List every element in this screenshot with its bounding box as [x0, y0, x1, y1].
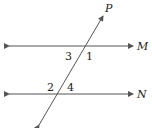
transversal-p	[39, 16, 103, 125]
label-n: N	[136, 88, 147, 101]
angle-1: 1	[86, 50, 93, 63]
angle-2: 2	[47, 81, 54, 94]
angle-3: 3	[65, 50, 72, 63]
label-m: M	[136, 40, 149, 53]
parallel-lines-diagram: P M N 3 1 2 4	[0, 0, 152, 128]
label-p: P	[104, 2, 113, 15]
angle-4: 4	[67, 81, 74, 94]
